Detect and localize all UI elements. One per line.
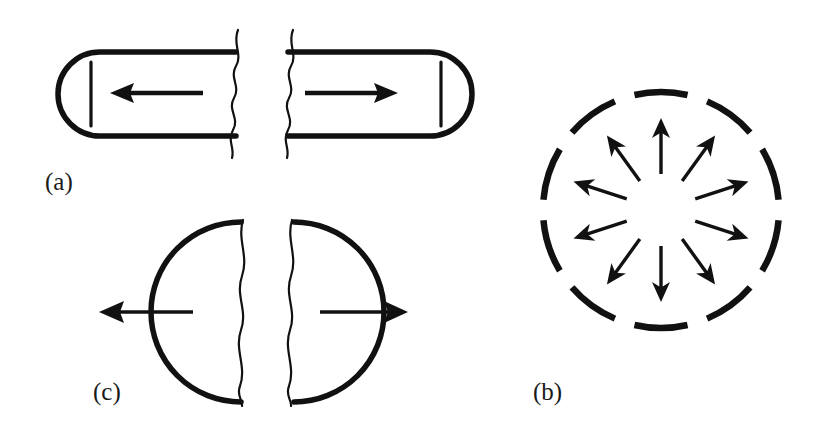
radial-arrow-shaft <box>585 221 626 234</box>
radial-arrow <box>652 118 670 174</box>
radial-arrow-head <box>607 263 626 284</box>
radial-arrow <box>682 136 715 181</box>
radial-arrow <box>695 221 748 241</box>
radial-arrow <box>574 179 627 199</box>
dashed-arc-segment <box>572 101 615 132</box>
break-line-left-c <box>239 220 245 406</box>
arrow-left-a <box>110 83 203 103</box>
panel-label-b: (b) <box>533 378 562 406</box>
radial-arrow-head <box>696 136 715 157</box>
break-line-right-c <box>288 220 294 406</box>
radial-arrow <box>652 246 670 302</box>
panel-a: (a) <box>45 30 472 196</box>
panel-b: (b) <box>533 92 779 406</box>
radial-arrow <box>574 221 627 241</box>
dashed-arc-segment <box>634 92 687 95</box>
radial-arrow-shaft <box>682 146 708 181</box>
dashed-arc-segment <box>707 101 750 132</box>
figure-root: (a) (c) <box>0 0 835 431</box>
radial-arrow-shaft <box>614 146 640 181</box>
radial-arrow-shaft <box>695 221 736 234</box>
dashed-arc-segment <box>707 287 750 318</box>
radial-arrow <box>682 239 715 284</box>
radial-arrow-head <box>696 263 715 284</box>
radial-arrow-shaft <box>682 239 708 274</box>
figure-canvas: (a) (c) <box>0 0 835 431</box>
radial-arrow <box>695 179 748 199</box>
break-line-right-a <box>286 30 294 158</box>
dashed-arc-segment <box>543 220 559 270</box>
radial-arrow <box>607 239 640 284</box>
dashed-arc-segment <box>543 149 559 199</box>
break-line-left-a <box>231 30 239 158</box>
dashed-arc-segment <box>762 149 778 199</box>
radial-arrow <box>607 136 640 181</box>
dashed-arc-segment <box>572 287 615 318</box>
panel-c: (c) <box>93 220 408 406</box>
radial-arrow-shaft <box>695 185 736 198</box>
arrow-left-c <box>99 301 193 323</box>
radial-arrow-shaft <box>614 239 640 274</box>
dashed-arc-segment <box>634 325 687 328</box>
arrow-right-c <box>320 301 408 323</box>
radial-arrows <box>574 118 749 302</box>
arrow-right-a <box>305 83 398 103</box>
radial-arrow-head <box>607 136 626 157</box>
radial-arrow-shaft <box>585 185 626 198</box>
panel-label-c: (c) <box>93 378 121 406</box>
panel-label-a: (a) <box>45 168 73 196</box>
dashed-arc-segment <box>762 220 778 270</box>
